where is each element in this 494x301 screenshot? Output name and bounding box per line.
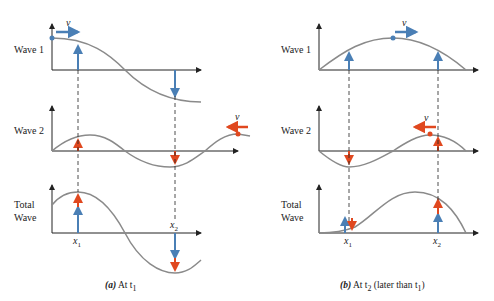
panel-a-total-label-line2: Wave (14, 212, 37, 224)
panel-b-wave2-velocity-label: v (424, 112, 428, 123)
panel-a-total-label-line1: Total (14, 199, 34, 211)
panel-b-wave1-velocity-label: v (402, 17, 406, 28)
panel-b-x2-label: x2 (433, 235, 441, 249)
panel-b-total-label-line1: Total (281, 199, 301, 211)
panel-a-wave2-velocity-label: v (235, 111, 239, 122)
panel-a-caption: (a) At t1 (105, 280, 136, 293)
panel-b-wave2-label: Wave 2 (281, 125, 311, 137)
panel-b-wave1-label: Wave 1 (281, 44, 311, 56)
panel-a-wave1-velocity-label: v (66, 17, 70, 28)
panel-b-x1-label: x1 (344, 235, 352, 249)
panel-b (319, 24, 478, 233)
superposition-diagram (0, 0, 494, 301)
panel-a-x2-label: x2 (170, 219, 178, 233)
panel-a-wave1-label: Wave 1 (14, 44, 44, 56)
panel-b-total-label-line2: Wave (281, 212, 304, 224)
panel-a-wave2-label: Wave 2 (14, 125, 44, 137)
panel-b-caption: (b) At t2 (later than t1) (340, 280, 425, 293)
panel-a-x1-label: x1 (73, 235, 81, 249)
